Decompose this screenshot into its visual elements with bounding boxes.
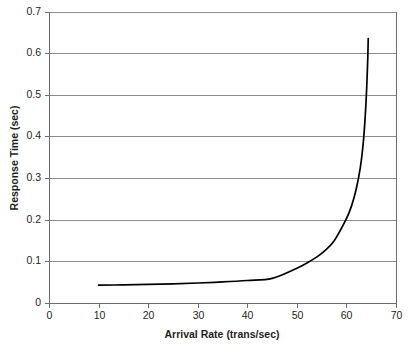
- y-tick-label-0.6: 0.6: [26, 46, 41, 58]
- x-tick-label-60: 60: [341, 309, 353, 321]
- x-tick-label-10: 10: [94, 309, 106, 321]
- x-tick-label-30: 30: [193, 309, 205, 321]
- chart-container: 00.10.20.30.40.50.60.7 010203040506070 A…: [0, 0, 413, 349]
- y-tick-label-0: 0: [35, 296, 41, 308]
- y-tick-label-0.2: 0.2: [26, 213, 41, 225]
- y-axis-title: Response Time (sec): [8, 106, 20, 211]
- chart-background: [0, 0, 413, 349]
- y-tick-label-0.5: 0.5: [26, 88, 41, 100]
- x-tick-label-40: 40: [242, 309, 254, 321]
- x-tick-label-20: 20: [143, 309, 155, 321]
- x-tick-label-70: 70: [391, 309, 403, 321]
- x-tick-label-0: 0: [47, 309, 53, 321]
- y-tick-label-0.3: 0.3: [26, 171, 41, 183]
- response-time-line-chart: 00.10.20.30.40.50.60.7 010203040506070 A…: [0, 0, 413, 349]
- y-tick-label-0.1: 0.1: [26, 254, 41, 266]
- x-tick-label-50: 50: [292, 309, 304, 321]
- y-tick-label-0.7: 0.7: [26, 5, 41, 17]
- y-tick-label-0.4: 0.4: [26, 129, 41, 141]
- x-axis-title: Arrival Rate (trans/sec): [165, 328, 280, 340]
